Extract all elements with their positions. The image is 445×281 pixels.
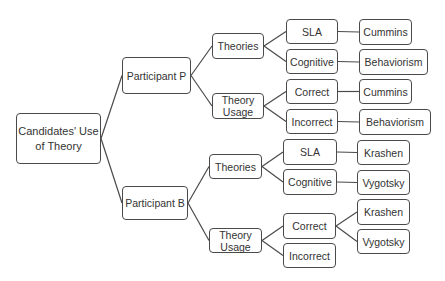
connector-p_theories-to-p_theories_sla [264, 32, 286, 47]
connector-b_usage-to-b_usage_correct [262, 226, 283, 241]
connector-p_usage-to-p_usage_incorrect [264, 106, 286, 122]
leaf-p-usage-behaviorism: Behaviorism [359, 109, 431, 135]
node-participant-p: Participant P [122, 57, 191, 94]
leaf-p-usage-cummins: Cummins [359, 79, 412, 104]
node-b-theories: Theories [209, 154, 262, 179]
connector-p_theories_sla-to-p_theories_sla_leaf [338, 32, 359, 33]
theory-use-tree-diagram: Candidates' Use of Theory Participant P … [0, 0, 445, 281]
connector-b_usage-to-b_usage_incorrect [262, 241, 283, 256]
node-b-usage-correct: Correct [283, 213, 336, 239]
connector-p-to-p_theories [191, 46, 212, 76]
connector-p_usage_incorrect-to-p_usage_incorrect_leaf [338, 122, 359, 123]
leaf-b-usage-krashen: Krashen [357, 199, 410, 225]
node-p-theories-sla: SLA [286, 19, 338, 44]
node-b-usage-incorrect: Incorrect [283, 243, 336, 268]
connector-root-to-b [101, 139, 122, 204]
leaf-p-cummins: Cummins [359, 19, 412, 45]
leaf-b-vygotsky: Vygotsky [357, 170, 410, 195]
connector-b_usage_correct-to-b_usage_correct_leaf2 [336, 226, 357, 242]
connector-b_theories-to-b_theories_cog [262, 167, 283, 183]
node-p-theory-usage: Theory Usage [212, 93, 264, 119]
leaf-b-krashen: Krashen [357, 140, 410, 165]
connector-b_usage_correct-to-b_usage_correct_leaf1 [336, 212, 357, 226]
node-p-theories: Theories [212, 33, 264, 59]
connector-p_theories_cog-to-p_theories_cog_leaf [338, 62, 359, 63]
connector-p_theories-to-p_theories_cog [264, 46, 286, 62]
node-p-usage-correct: Correct [286, 79, 338, 104]
connector-b_theories_cog-to-b_theories_cog_leaf [337, 182, 357, 183]
connector-b_theories-to-b_theories_sla [262, 152, 283, 167]
root-node-candidates-use-of-theory: Candidates' Use of Theory [16, 113, 101, 164]
leaf-p-behaviorism: Behaviorism [359, 49, 428, 75]
node-p-theories-cognitive: Cognitive [286, 49, 338, 74]
connector-p-to-p_usage [191, 76, 212, 107]
connector-b-to-b_theories [188, 167, 209, 204]
connector-b-to-b_usage [188, 203, 209, 241]
connector-b_theories_sla-to-b_theories_sla_leaf [337, 152, 357, 153]
node-b-theories-sla: SLA [283, 139, 337, 165]
leaf-b-usage-vygotsky: Vygotsky [357, 229, 410, 254]
node-p-usage-incorrect: Incorrect [286, 109, 338, 134]
node-b-theory-usage: Theory Usage [209, 228, 262, 253]
connector-root-to-p [101, 76, 122, 139]
connector-p_usage-to-p_usage_correct [264, 92, 286, 107]
node-b-theories-cognitive: Cognitive [283, 169, 337, 195]
node-participant-b: Participant B [122, 186, 188, 220]
